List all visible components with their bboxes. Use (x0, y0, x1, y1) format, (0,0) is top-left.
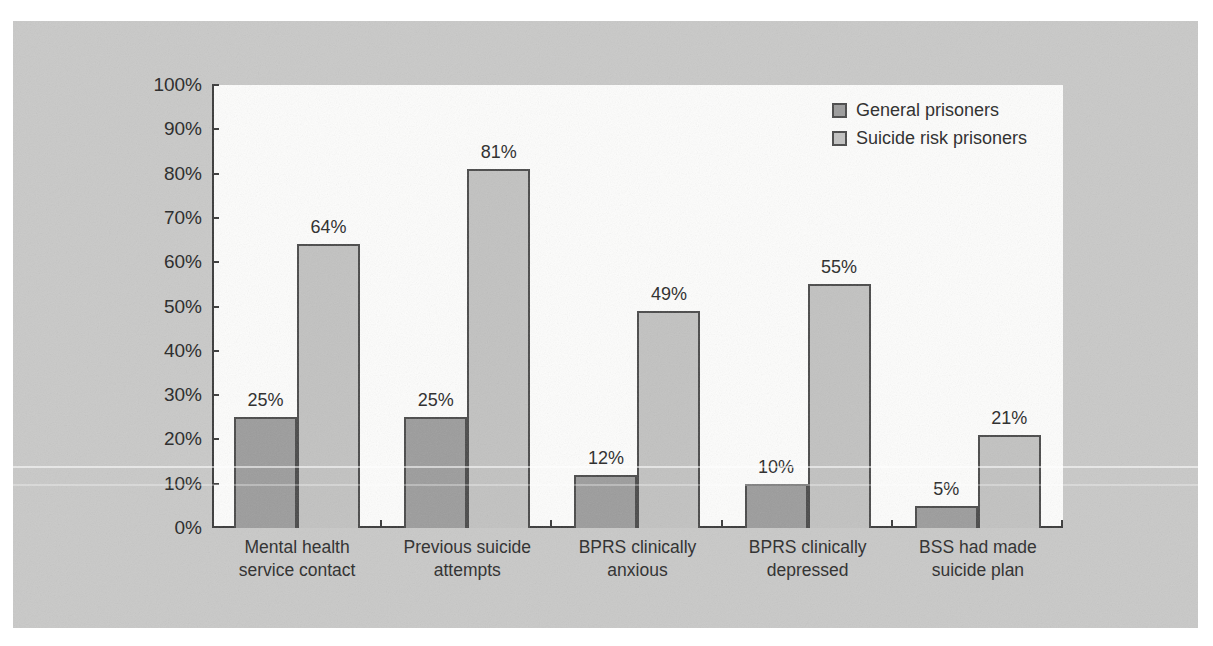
bar-value-label: 25% (391, 390, 481, 411)
y-axis-tick (212, 483, 219, 485)
y-axis-tick (212, 128, 219, 130)
bar-value-label: 10% (731, 457, 821, 478)
bar-general-prisoners (574, 475, 637, 528)
y-axis-label: 50% (132, 296, 202, 318)
bar-value-label: 55% (794, 257, 884, 278)
legend: General prisonersSuicide risk prisoners (832, 100, 1027, 156)
category-label: BPRS clinicallydepressed (723, 536, 893, 582)
y-axis-tick (212, 394, 219, 396)
legend-swatch (832, 103, 847, 118)
bar-value-label: 64% (284, 217, 374, 238)
y-axis-label: 80% (132, 163, 202, 185)
bar-general-prisoners (745, 484, 808, 528)
y-axis-label: 10% (132, 473, 202, 495)
y-axis-tick (212, 84, 219, 86)
x-axis-tick (1061, 520, 1063, 528)
bar-suicide-risk-prisoners (637, 311, 700, 528)
bar-value-label: 25% (221, 390, 311, 411)
bar-general-prisoners (404, 417, 467, 528)
y-axis-label: 20% (132, 428, 202, 450)
y-axis-label: 70% (132, 207, 202, 229)
y-axis-label: 30% (132, 384, 202, 406)
y-axis-tick (212, 217, 219, 219)
bar-general-prisoners (234, 417, 297, 528)
y-axis-tick (212, 173, 219, 175)
bar-value-label: 21% (964, 408, 1054, 429)
y-axis-label: 0% (132, 517, 202, 539)
y-axis-tick (212, 261, 219, 263)
bar-value-label: 49% (624, 284, 714, 305)
bar-value-label: 81% (454, 142, 544, 163)
x-axis-tick (550, 520, 552, 528)
legend-label: General prisoners (856, 100, 999, 121)
y-axis-label: 40% (132, 340, 202, 362)
category-label: Previous suicideattempts (382, 536, 552, 582)
bar-general-prisoners (915, 506, 978, 528)
legend-item: General prisoners (832, 100, 1027, 121)
legend-label: Suicide risk prisoners (856, 128, 1027, 149)
chart-panel: 0%10%20%30%40%50%60%70%80%90%100% 25%64%… (13, 21, 1198, 628)
bar-suicide-risk-prisoners (297, 244, 360, 528)
legend-item: Suicide risk prisoners (832, 128, 1027, 149)
x-axis-tick (891, 520, 893, 528)
y-axis-tick (212, 438, 219, 440)
y-axis-tick (212, 350, 219, 352)
category-label: BPRS clinicallyanxious (552, 536, 722, 582)
legend-swatch (832, 131, 847, 146)
bar-value-label: 5% (901, 479, 991, 500)
category-label: BSS had madesuicide plan (893, 536, 1063, 582)
x-axis-tick (721, 520, 723, 528)
y-axis-tick (212, 306, 219, 308)
bar-suicide-risk-prisoners (808, 284, 871, 528)
bar-suicide-risk-prisoners (467, 169, 530, 528)
y-axis-label: 100% (132, 74, 202, 96)
y-axis-label: 90% (132, 118, 202, 140)
bar-value-label: 12% (561, 448, 651, 469)
category-label: Mental healthservice contact (212, 536, 382, 582)
y-axis-label: 60% (132, 251, 202, 273)
x-axis-tick (380, 520, 382, 528)
